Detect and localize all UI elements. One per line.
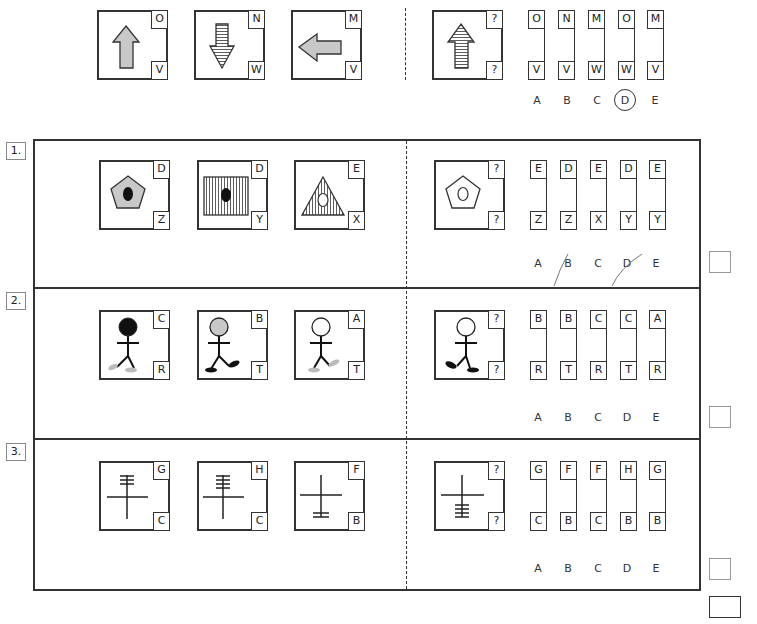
example-item-1: O V — [97, 10, 168, 80]
option-b: BT — [560, 310, 577, 380]
option-a: GC — [530, 461, 547, 531]
answer-box-3[interactable] — [709, 558, 731, 580]
option-a: OV — [528, 10, 545, 80]
top-letter: O — [151, 10, 168, 29]
option-label-d[interactable]: D — [617, 562, 637, 575]
top-letter: C — [590, 310, 607, 329]
bottom-letter: C — [590, 512, 607, 531]
option-label-e[interactable]: E — [646, 562, 666, 575]
q1-item-1: D Z — [99, 160, 170, 230]
option-label-d[interactable]: D — [617, 411, 637, 424]
option-d: CT — [620, 310, 637, 380]
bottom-letter: V — [647, 61, 664, 80]
example-item-2: N W — [194, 10, 265, 80]
option-d: DY — [620, 160, 637, 230]
q3-item-3: F B — [294, 461, 365, 531]
section-divider — [33, 438, 701, 440]
q3-item-2: H C — [197, 461, 268, 531]
bottom-letter: T — [251, 361, 268, 380]
q2-item-1: C R — [99, 310, 170, 380]
top-letter: ? — [488, 461, 505, 480]
divider — [406, 141, 407, 589]
example-item-3: M V — [291, 10, 362, 80]
option-c: EX — [590, 160, 607, 230]
bottom-letter: B — [348, 512, 365, 531]
option-e: MV — [647, 10, 664, 80]
option-label-b[interactable]: B — [558, 411, 578, 424]
option-label-a[interactable]: A — [528, 411, 548, 424]
bottom-letter: ? — [488, 512, 505, 531]
pencil-marks — [550, 248, 650, 288]
top-letter: D — [560, 160, 577, 179]
option-label-c[interactable]: C — [587, 94, 607, 107]
q1-question: ? ? — [434, 160, 505, 230]
bottom-letter: Z — [153, 211, 170, 230]
option-d: OW — [618, 10, 635, 80]
top-letter: D — [251, 160, 268, 179]
option-label-c[interactable]: C — [588, 562, 608, 575]
bottom-letter: V — [558, 61, 575, 80]
option-label-c[interactable]: C — [588, 411, 608, 424]
bottom-letter: X — [348, 211, 365, 230]
option-b: FB — [560, 461, 577, 531]
top-letter: N — [558, 10, 575, 29]
answer-box-2[interactable] — [709, 406, 731, 428]
bottom-letter: R — [590, 361, 607, 380]
top-letter: G — [530, 461, 547, 480]
question-number: 3. — [6, 443, 26, 461]
option-label-e[interactable]: E — [645, 94, 665, 107]
bottom-letter: R — [153, 361, 170, 380]
bottom-letter: B — [560, 512, 577, 531]
top-letter: ? — [486, 10, 503, 29]
top-letter: A — [649, 310, 666, 329]
option-c: MW — [588, 10, 605, 80]
bottom-letter: C — [153, 512, 170, 531]
option-c: CR — [590, 310, 607, 380]
top-letter: M — [345, 10, 362, 29]
top-letter: D — [153, 160, 170, 179]
bottom-letter: T — [560, 361, 577, 380]
score-box[interactable] — [709, 596, 741, 618]
question-number: 2. — [6, 292, 26, 310]
question-number: 1. — [6, 142, 26, 160]
option-label-e[interactable]: E — [646, 411, 666, 424]
top-letter: B — [560, 310, 577, 329]
top-letter: F — [348, 461, 365, 480]
top-letter: M — [647, 10, 664, 29]
top-letter: B — [530, 310, 547, 329]
answer-box-1[interactable] — [709, 251, 731, 273]
bottom-letter: V — [151, 61, 168, 80]
top-letter: O — [528, 10, 545, 29]
option-c: FC — [590, 461, 607, 531]
top-letter: E — [590, 160, 607, 179]
option-label-d[interactable]: D — [615, 94, 635, 107]
bottom-letter: R — [530, 361, 547, 380]
option-label-a[interactable]: A — [527, 94, 547, 107]
top-letter: M — [588, 10, 605, 29]
bottom-letter: Z — [560, 211, 577, 230]
option-label-b[interactable]: B — [558, 562, 578, 575]
top-letter: B — [251, 310, 268, 329]
top-letter: N — [248, 10, 265, 29]
top-letter: C — [153, 310, 170, 329]
bottom-letter: V — [528, 61, 545, 80]
top-letter: E — [530, 160, 547, 179]
bottom-letter: Y — [620, 211, 637, 230]
q3-item-1: G C — [99, 461, 170, 531]
top-letter: H — [620, 461, 637, 480]
option-label-a[interactable]: A — [528, 257, 548, 270]
option-label-a[interactable]: A — [528, 562, 548, 575]
option-d: HB — [620, 461, 637, 531]
top-letter: ? — [488, 310, 505, 329]
option-e: EY — [649, 160, 666, 230]
bottom-letter: X — [590, 211, 607, 230]
option-label-b[interactable]: B — [557, 94, 577, 107]
q2-item-2: B T — [197, 310, 268, 380]
bottom-letter: T — [348, 361, 365, 380]
top-letter: F — [560, 461, 577, 480]
divider — [405, 8, 406, 80]
option-a: BR — [530, 310, 547, 380]
top-letter: A — [348, 310, 365, 329]
top-letter: G — [649, 461, 666, 480]
bottom-letter: W — [248, 61, 265, 80]
